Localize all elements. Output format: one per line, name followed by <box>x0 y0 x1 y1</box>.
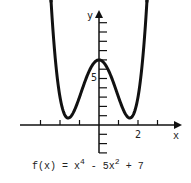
y-axis-label: y <box>87 11 93 21</box>
x-axis-label: x <box>173 131 179 141</box>
y-axis-ticks <box>99 23 107 153</box>
x-tick-label-2: 2 <box>135 130 141 140</box>
function-caption: f(x) = x4 - 5x2 + 7 <box>32 158 144 172</box>
left-curve-arrow-icon <box>51 0 52 2</box>
y-axis <box>99 14 107 153</box>
right-curve-arrow-icon <box>147 0 148 2</box>
curve-end-arrows <box>51 0 148 2</box>
y-tick-label-5: 5 <box>91 73 97 83</box>
function-graph <box>0 0 191 183</box>
